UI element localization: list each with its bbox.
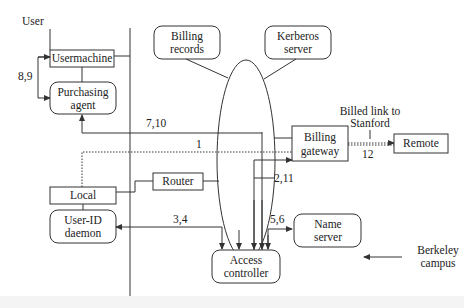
purchasing-agent-label-2: agent <box>71 99 97 112</box>
remote-label: Remote <box>403 137 439 149</box>
router-label: Router <box>162 175 193 187</box>
access-controller-label-2: controller <box>224 267 269 279</box>
label-3-4: 3,4 <box>173 213 188 226</box>
billed-link-label-2: Stanford <box>350 117 390 129</box>
berkeley-campus-label-2: campus <box>420 257 456 270</box>
kerberos-server-label-1: Kerberos <box>277 30 320 42</box>
label-1: 1 <box>196 138 202 150</box>
edge-5-6 <box>268 229 292 249</box>
kerberos-server-label-2: server <box>284 43 312 55</box>
label-2-11: 2,11 <box>274 172 294 185</box>
user-id-daemon-label-2: daemon <box>65 227 102 239</box>
billing-records-label-1: Billing <box>171 30 203 43</box>
user-id-daemon-label-1: User-ID <box>64 214 101 226</box>
label-8-9: 8,9 <box>18 70 33 83</box>
name-server-label-2: server <box>314 231 342 243</box>
billing-records-link <box>186 59 228 78</box>
name-server-label-1: Name <box>314 218 341 230</box>
access-controller-label-1: Access <box>230 254 263 266</box>
label-7-10: 7,10 <box>146 117 166 130</box>
usermachine-label: Usermachine <box>52 52 113 64</box>
billing-gateway-label-2: gateway <box>301 145 340 158</box>
billing-gateway-label-1: Billing <box>304 131 336 144</box>
network-diagram: User Usermachine 8,9 Purchasing agent Bi… <box>0 0 464 308</box>
purchasing-agent-label-1: Purchasing <box>57 86 108 99</box>
local-router-link <box>116 181 153 192</box>
footer-strip <box>0 296 464 308</box>
berkeley-campus-label-1: Berkeley <box>417 244 459 257</box>
edge-7-10 <box>82 115 262 133</box>
label-12: 12 <box>362 148 374 160</box>
label-5-6: 5,6 <box>270 213 285 226</box>
billing-records-label-2: records <box>170 43 204 55</box>
local-label: Local <box>70 189 96 201</box>
billed-link-label-1: Billed link to <box>340 105 401 117</box>
user-label: User <box>22 15 44 27</box>
kerberos-server-link <box>264 59 296 79</box>
edge-8-9 <box>38 57 50 98</box>
